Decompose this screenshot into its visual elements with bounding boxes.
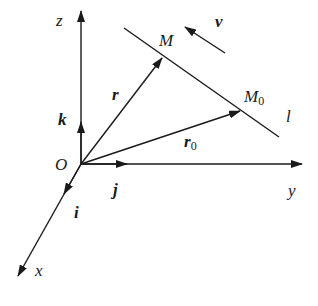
z-axis-label: z [55, 11, 63, 30]
point-m-label: M [158, 31, 174, 50]
x-axis-label: x [34, 261, 43, 280]
v-label: v [215, 12, 223, 31]
r0-label: r0 [184, 132, 197, 153]
line-l [124, 28, 279, 137]
line-l-label: l [286, 107, 291, 126]
k-label: k [58, 110, 67, 129]
j-label: j [110, 180, 118, 199]
point-m0-label: M0 [243, 87, 264, 108]
vector-r0 [81, 111, 240, 164]
y-axis-label: y [286, 181, 296, 200]
i-label: i [74, 203, 79, 222]
vector-r [81, 58, 162, 164]
origin-label: O [55, 155, 67, 174]
r-label: r [112, 85, 119, 104]
line-in-space-diagram: z y x O k j i r r0 v M M0 l [0, 0, 318, 306]
